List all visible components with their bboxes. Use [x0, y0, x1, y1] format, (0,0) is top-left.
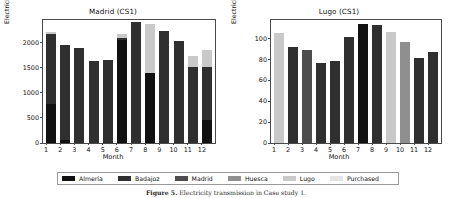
bar-segment-madrid-4-badajoz: [89, 61, 99, 143]
bar-segment-lugo-5-badajoz: [330, 61, 340, 143]
bar-segment-lugo-4-badajoz: [316, 63, 326, 143]
bar-segment-madrid-2-badajoz: [60, 45, 70, 139]
legend-label: Badajoz: [135, 175, 160, 183]
bar-segment-madrid-11-badajoz: [188, 67, 198, 143]
bar-segment-madrid-1-badajoz: [46, 34, 56, 104]
bar-group-madrid: 123456789101112: [43, 20, 215, 143]
x-axis-label-lugo: Month: [226, 153, 452, 161]
bar-madrid-month-12: 12: [202, 50, 212, 143]
legend-label: Lugo: [300, 175, 315, 183]
bar-segment-madrid-3-badajoz: [74, 48, 84, 143]
bar-lugo-month-2: 2: [288, 47, 298, 143]
legend-item-almeria[interactable]: Almería: [62, 175, 118, 183]
bar-lugo-month-9: 9: [386, 32, 396, 143]
figure-caption-text: Electricity transmission in Case study 1…: [179, 189, 306, 196]
legend-swatch-icon: [228, 176, 241, 181]
legend-label: Huesca: [245, 175, 268, 183]
y-axis-label-madrid: Electricity transmitted [GWh]: [2, 0, 11, 36]
figure-electricity-transmission: Madrid (CS1) Electricity transmitted [GW…: [0, 0, 452, 198]
plot-axes-madrid: 123456789101112 0500100015002000: [42, 19, 216, 144]
bar-segment-lugo-12-badajoz: [428, 52, 438, 143]
bar-segment-madrid-9-badajoz: [159, 31, 169, 143]
bar-madrid-month-3: 3: [74, 48, 84, 143]
bar-lugo-month-12: 12: [428, 52, 438, 143]
legend-swatch-icon: [62, 176, 75, 181]
bar-lugo-month-4: 4: [316, 63, 326, 143]
legend-swatch-icon: [118, 176, 131, 181]
bar-segment-madrid-1-almera: [46, 104, 56, 143]
bar-segment-madrid-5-badajoz: [103, 60, 113, 143]
bar-segment-madrid-12-almera: [202, 120, 212, 143]
bar-lugo-month-6: 6: [344, 37, 354, 143]
bar-segment-lugo-8-badajoz: [372, 25, 382, 143]
legend-swatch-icon: [283, 176, 296, 181]
legend-item-madrid[interactable]: Madrid: [175, 175, 228, 183]
legend-item-purchased[interactable]: Purchased: [330, 175, 394, 183]
bar-lugo-month-10: 10: [400, 42, 410, 143]
bar-lugo-month-8: 8: [372, 25, 382, 143]
bar-segment-madrid-12-badajoz: [202, 67, 212, 119]
bar-madrid-month-10: 10: [174, 41, 184, 143]
legend-swatch-icon: [330, 176, 343, 181]
legend-swatch-icon: [175, 176, 188, 181]
bar-segment-lugo-6-badajoz: [344, 37, 354, 143]
bar-madrid-month-6: 6: [117, 34, 127, 143]
chart-title-lugo: Lugo (CS1): [226, 8, 452, 16]
bar-segment-madrid-8-almera: [145, 73, 155, 143]
bar-lugo-month-7: 7: [358, 24, 368, 143]
bar-segment-lugo-10-huesca: [400, 42, 410, 143]
chart-title-madrid: Madrid (CS1): [0, 8, 226, 16]
bar-segment-lugo-2-badajoz: [288, 47, 298, 143]
bar-lugo-month-5: 5: [330, 61, 340, 143]
chart-panel-lugo: Lugo (CS1) Electricity transmitted [GWh]…: [226, 0, 452, 168]
x-axis-label-madrid: Month: [0, 153, 226, 161]
bar-segment-madrid-6-almera: [117, 40, 127, 143]
chart-legend: AlmeríaBadajozMadridHuescaLugoPurchased: [57, 172, 399, 185]
bar-segment-madrid-11-lugo: [188, 56, 198, 68]
figure-caption: Figure 5. Electricity transmission in Ca…: [0, 189, 452, 197]
chart-panel-madrid: Madrid (CS1) Electricity transmitted [GW…: [0, 0, 226, 168]
bar-madrid-month-9: 9: [159, 31, 169, 143]
bar-madrid-month-4: 4: [89, 61, 99, 143]
bar-group-lugo: 123456789101112: [271, 20, 441, 143]
bar-madrid-month-11: 11: [188, 56, 198, 143]
bar-segment-madrid-8-lugo: [145, 24, 155, 73]
bar-segment-lugo-1-lugo: [274, 33, 284, 143]
bar-madrid-month-1: 1: [46, 32, 56, 143]
bar-madrid-month-7: 7: [131, 22, 141, 143]
bar-segment-lugo-9-lugo: [386, 32, 396, 143]
bar-segment-madrid-10-badajoz: [174, 41, 184, 143]
legend-label: Madrid: [192, 175, 213, 183]
legend-item-lugo[interactable]: Lugo: [283, 175, 330, 183]
legend-label: Almería: [79, 175, 103, 183]
bar-segment-lugo-3-madrid: [302, 50, 312, 143]
bar-segment-madrid-12-lugo: [202, 50, 212, 67]
bar-segment-madrid-7-badajoz: [131, 22, 141, 143]
figure-caption-label: Figure 5.: [146, 189, 177, 196]
bar-segment-lugo-11-badajoz: [414, 58, 424, 143]
bar-madrid-month-5: 5: [103, 60, 113, 143]
bar-lugo-month-1: 1: [274, 33, 284, 143]
legend-label: Purchased: [347, 175, 379, 183]
y-axis-label-lugo: Electricity transmitted [GWh]: [229, 0, 238, 36]
legend-item-badajoz[interactable]: Badajoz: [118, 175, 175, 183]
bar-madrid-month-2: 2: [60, 45, 70, 143]
legend-item-huesca[interactable]: Huesca: [228, 175, 283, 183]
bar-madrid-month-8: 8: [145, 24, 155, 143]
plot-axes-lugo: 123456789101112 020406080100: [270, 19, 442, 144]
bar-lugo-month-11: 11: [414, 58, 424, 143]
bar-segment-lugo-7-almera: [358, 24, 368, 143]
bar-lugo-month-3: 3: [302, 50, 312, 143]
